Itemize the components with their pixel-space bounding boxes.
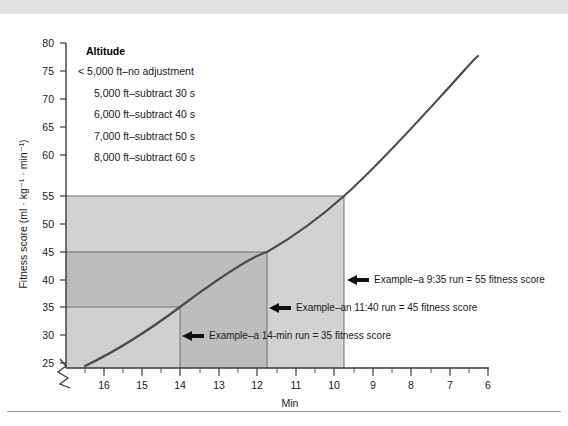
page-footer-rule	[7, 411, 561, 412]
altitude-legend: Altitude < 5,000 ft–no adjustment 5,000 …	[78, 45, 195, 163]
annotation-example-1140: Example–an 11:40 run = 45 fitness score	[269, 302, 478, 313]
altitude-legend-item-3: 7,000 ft–subtract 50 s	[94, 130, 195, 142]
x-tick-label-15: 15	[136, 379, 148, 391]
y-tick-label-70: 70	[42, 93, 54, 105]
page-header-bar	[0, 0, 568, 14]
x-axis-ticks	[104, 368, 488, 376]
x-axis-title: Min	[282, 397, 299, 409]
chart-figure: 80 75 70 65 60 55 50 45 40 35 30 25 Fitn…	[0, 14, 568, 411]
x-tick-label-13: 13	[213, 379, 225, 391]
y-tick-label-65: 65	[42, 121, 54, 133]
region-14-min	[66, 307, 180, 368]
annotation-example-955: Example–a 9:35 run = 55 fitness score	[347, 274, 545, 285]
x-tick-label-6: 6	[485, 379, 491, 391]
altitude-legend-item-2: 6,000 ft–subtract 40 s	[94, 108, 195, 120]
x-tick-label-9: 9	[370, 379, 376, 391]
x-axis-tick-labels: 16 15 14 13 12 11 10 9 8 7 6	[98, 379, 491, 391]
altitude-legend-item-0: < 5,000 ft–no adjustment	[78, 65, 194, 77]
y-tick-label-45: 45	[42, 246, 54, 258]
x-tick-label-14: 14	[174, 379, 186, 391]
x-tick-label-16: 16	[98, 379, 110, 391]
annotation-text-1140: Example–an 11:40 run = 45 fitness score	[296, 302, 478, 313]
altitude-legend-item-4: 8,000 ft–subtract 60 s	[94, 151, 195, 163]
y-tick-label-40: 40	[42, 274, 54, 286]
y-axis-title: Fitness score (ml · kg⁻¹ · min⁻¹)	[17, 139, 29, 288]
altitude-legend-title: Altitude	[86, 45, 125, 57]
chart-svg: 80 75 70 65 60 55 50 45 40 35 30 25 Fitn…	[0, 14, 568, 411]
altitude-legend-item-1: 5,000 ft–subtract 30 s	[94, 87, 195, 99]
y-tick-label-75: 75	[42, 65, 54, 77]
left-arrow-icon-955	[347, 275, 369, 285]
annotation-example-14min: Example–a 14-min run = 35 fitness score	[182, 330, 391, 341]
y-tick-label-80: 80	[42, 37, 54, 49]
y-tick-label-55: 55	[42, 190, 54, 202]
x-tick-label-11: 11	[291, 379, 302, 391]
y-tick-label-50: 50	[42, 218, 54, 230]
y-tick-label-35: 35	[42, 301, 54, 313]
y-tick-label-60: 60	[42, 149, 54, 161]
x-tick-label-10: 10	[328, 379, 340, 391]
x-tick-label-8: 8	[408, 379, 414, 391]
reference-regions	[66, 196, 344, 368]
y-axis-tick-labels: 80 75 70 65 60 55 50 45 40 35 30 25	[42, 37, 54, 369]
annotation-text-955: Example–a 9:35 run = 55 fitness score	[374, 274, 545, 285]
y-tick-label-25: 25	[42, 357, 54, 369]
figure-page: 80 75 70 65 60 55 50 45 40 35 30 25 Fitn…	[0, 0, 568, 426]
x-tick-label-12: 12	[251, 379, 263, 391]
y-tick-label-30: 30	[42, 329, 54, 341]
x-tick-label-7: 7	[447, 379, 453, 391]
annotation-text-14min: Example–a 14-min run = 35 fitness score	[209, 330, 391, 341]
y-axis-ticks	[60, 43, 66, 363]
